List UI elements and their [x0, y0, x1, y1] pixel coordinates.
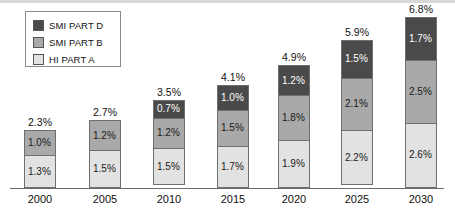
- bar-2015: 1.0%1.5%1.7%: [217, 85, 249, 188]
- legend-item-smi-part-b: SMI PART B: [33, 34, 120, 50]
- bar-total-label-2005: 2.7%: [83, 107, 127, 118]
- legend-item-hi-part-a: HI PART A: [33, 51, 120, 67]
- x-axis-label-2030: 2030: [395, 193, 447, 205]
- bar-2020: 1.2%1.8%1.9%: [278, 65, 310, 188]
- bar-segment-smi-part-d-2020: 1.2%: [278, 65, 310, 95]
- segment-value-label: 1.2%: [93, 131, 116, 141]
- bar-total-label-2010: 3.5%: [147, 87, 191, 98]
- segment-value-label: 1.7%: [221, 162, 244, 172]
- segment-value-label: 1.8%: [282, 113, 305, 123]
- bar-segment-smi-part-b-2025: 2.1%: [341, 78, 373, 131]
- bar-segment-smi-part-b-2005: 1.2%: [89, 120, 121, 150]
- x-axis-line: [10, 188, 444, 189]
- legend-swatch-smi-part-d: [33, 20, 44, 31]
- bar-total-label-2015: 4.1%: [211, 72, 255, 83]
- segment-value-label: 0.7%: [157, 104, 180, 114]
- bar-segment-hi-part-a-2010: 1.5%: [153, 148, 185, 186]
- segment-value-label: 1.2%: [282, 76, 305, 86]
- legend-swatch-smi-part-b: [33, 37, 44, 48]
- bar-segment-hi-part-a-2020: 1.9%: [278, 140, 310, 188]
- bar-segment-smi-part-d-2025: 1.5%: [341, 40, 373, 78]
- bar-total-label-2020: 4.9%: [272, 52, 316, 63]
- bar-segment-smi-part-b-2020: 1.8%: [278, 95, 310, 140]
- segment-value-label: 1.5%: [221, 123, 244, 133]
- segment-value-label: 1.9%: [282, 159, 305, 169]
- bar-2005: 1.2%1.5%: [89, 120, 121, 188]
- bar-2030: 1.7%2.5%2.6%: [405, 17, 437, 188]
- stacked-bar-chart: 1.0%1.3%2.3%1.2%1.5%2.7%0.7%1.2%1.5%3.5%…: [0, 0, 455, 212]
- bar-2000: 1.0%1.3%: [24, 130, 56, 188]
- segment-value-label: 2.1%: [345, 99, 368, 109]
- segment-value-label: 1.3%: [28, 167, 51, 177]
- legend-label-smi-part-b: SMI PART B: [49, 37, 103, 48]
- segment-value-label: 1.5%: [345, 54, 368, 64]
- segment-value-label: 1.0%: [28, 138, 51, 148]
- segment-value-label: 2.6%: [409, 150, 432, 160]
- bar-total-label-2025: 5.9%: [335, 27, 379, 38]
- x-axis-label-2020: 2020: [268, 193, 320, 205]
- x-axis-label-2000: 2000: [14, 193, 66, 205]
- segment-value-label: 1.5%: [93, 164, 116, 174]
- x-axis-label-2005: 2005: [79, 193, 131, 205]
- segment-value-label: 2.5%: [409, 87, 432, 97]
- x-axis-label-2015: 2015: [207, 193, 259, 205]
- x-axis-label-2010: 2010: [143, 193, 195, 205]
- legend-label-hi-part-a: HI PART A: [49, 54, 95, 65]
- segment-value-label: 1.5%: [157, 162, 180, 172]
- bar-segment-hi-part-a-2000: 1.3%: [24, 155, 56, 188]
- bar-segment-hi-part-a-2025: 2.2%: [341, 130, 373, 185]
- segment-value-label: 2.2%: [345, 153, 368, 163]
- bar-2025: 1.5%2.1%2.2%: [341, 40, 373, 188]
- bar-segment-smi-part-d-2010: 0.7%: [153, 100, 185, 118]
- bar-segment-smi-part-b-2030: 2.5%: [405, 60, 437, 123]
- bar-segment-hi-part-a-2005: 1.5%: [89, 150, 121, 188]
- legend-item-smi-part-d: SMI PART D: [33, 17, 120, 33]
- segment-value-label: 1.2%: [157, 128, 180, 138]
- bar-segment-smi-part-d-2015: 1.0%: [217, 85, 249, 110]
- legend-swatch-hi-part-a: [33, 54, 44, 65]
- bar-total-label-2030: 6.8%: [399, 4, 443, 15]
- x-axis-label-2025: 2025: [331, 193, 383, 205]
- chart-legend: SMI PART D SMI PART B HI PART A: [25, 11, 121, 67]
- bar-segment-smi-part-b-2015: 1.5%: [217, 110, 249, 147]
- bar-segment-hi-part-a-2015: 1.7%: [217, 146, 249, 188]
- bar-2010: 0.7%1.2%1.5%: [153, 100, 185, 188]
- bar-segment-smi-part-d-2030: 1.7%: [405, 17, 437, 60]
- segment-value-label: 1.7%: [409, 34, 432, 44]
- bar-segment-smi-part-b-2010: 1.2%: [153, 118, 185, 148]
- bar-segment-smi-part-b-2000: 1.0%: [24, 130, 56, 155]
- bar-segment-hi-part-a-2030: 2.6%: [405, 123, 437, 188]
- bar-total-label-2000: 2.3%: [18, 117, 62, 128]
- legend-label-smi-part-d: SMI PART D: [49, 20, 103, 31]
- segment-value-label: 1.0%: [221, 93, 244, 103]
